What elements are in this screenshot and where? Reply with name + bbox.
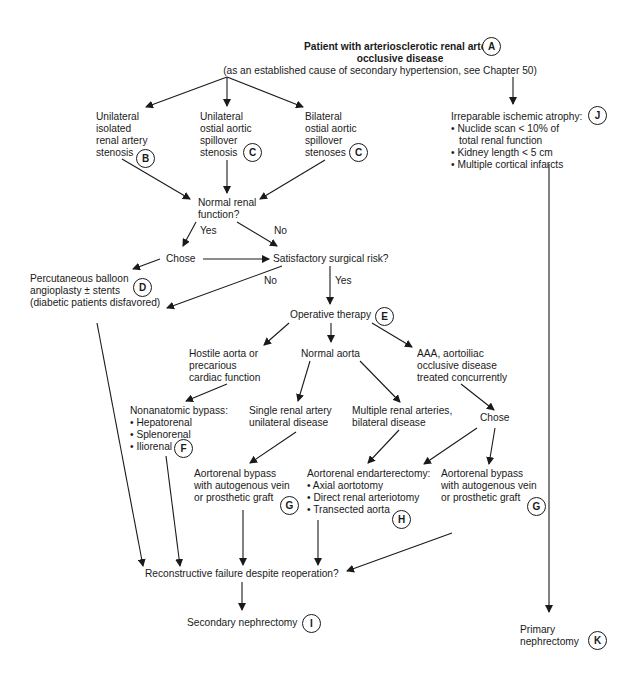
node-g1-line: with autogenous vein xyxy=(194,480,290,492)
node-g2-line: with autogenous vein xyxy=(441,480,537,492)
node-g2-line: Aortorenal bypass xyxy=(441,468,537,480)
node-f-title: Nonanatomic bypass: xyxy=(130,405,228,417)
node-normal-renal-function: Normal renal function? xyxy=(198,197,256,221)
node-operative-therapy: Operative therapy xyxy=(290,309,371,321)
node-secondary-nephrectomy: Secondary nephrectomy xyxy=(187,617,297,629)
hostile-line: precarious xyxy=(189,360,260,372)
node-primary-nephrectomy: Primary nephrectomy xyxy=(520,624,579,648)
chose1-line: Chose xyxy=(166,253,195,265)
badge-j: J xyxy=(588,106,607,125)
hostile-line: cardiac function xyxy=(189,372,260,384)
node-a-line-2: occlusive disease xyxy=(250,53,550,65)
normal-renal-line: Normal renal xyxy=(198,197,256,209)
node-d-line: (diabetic patients disfavored) xyxy=(30,297,160,309)
badge-i: I xyxy=(302,614,321,633)
node-g2-line: or prosthetic graft xyxy=(441,492,537,504)
aaa-line: AAA, aortoiliac xyxy=(417,348,507,360)
node-a-note: (as an established cause of secondary hy… xyxy=(190,65,570,77)
hostile-line: Hostile aorta or xyxy=(189,348,260,360)
node-aortorenal-bypass-2: Aortorenal bypass with autogenous vein o… xyxy=(441,468,537,504)
aaa-line: occlusive disease xyxy=(417,360,507,372)
node-h-bullet: • Transected aorta xyxy=(307,504,430,516)
surgical-risk-line: Satisfactory surgical risk? xyxy=(273,253,389,265)
node-multiple-renal-arteries: Multiple renal arteries, bilateral disea… xyxy=(352,405,452,429)
node-g1-line: Aortorenal bypass xyxy=(194,468,290,480)
node-c1-line: spillover xyxy=(200,135,252,147)
edge-label-yes-1: Yes xyxy=(200,225,217,236)
node-c2-line: Bilateral xyxy=(305,111,357,123)
node-a-line-1: Patient with arteriosclerotic renal arte… xyxy=(250,41,550,53)
multiple-line: Multiple renal arteries, xyxy=(352,405,452,417)
node-j-bullet: • Kidney length < 5 cm xyxy=(451,147,582,159)
node-irreparable-atrophy: Irreparable ischemic atrophy: • Nuclide … xyxy=(451,111,582,171)
edge-label-no-2: No xyxy=(264,275,277,286)
edge-label-yes-2: Yes xyxy=(335,275,352,286)
chose2-line: Chose xyxy=(480,412,509,424)
node-j-title: Irreparable ischemic atrophy: xyxy=(451,111,582,123)
node-aortorenal-bypass-1: Aortorenal bypass with autogenous vein o… xyxy=(194,468,290,504)
node-a-line-3: (as an established cause of secondary hy… xyxy=(190,65,570,77)
badge-h: H xyxy=(392,510,411,529)
node-j-bullet: • Multiple cortical infarcts xyxy=(451,159,582,171)
node-aortorenal-endarterectomy: Aortorenal endarterectomy: • Axial aorto… xyxy=(307,468,430,516)
node-k-line: Primary xyxy=(520,624,579,636)
node-h-bullet: • Axial aortotomy xyxy=(307,480,430,492)
badge-e: E xyxy=(375,307,394,326)
reconstructive-line: Reconstructive failure despite reoperati… xyxy=(145,568,339,580)
node-c2-line: spillover xyxy=(305,135,357,147)
node-reconstructive-failure: Reconstructive failure despite reoperati… xyxy=(145,568,339,580)
badge-g-2: G xyxy=(527,497,546,516)
badge-f: F xyxy=(174,439,193,458)
normal-aorta-line: Normal aorta xyxy=(301,348,360,360)
node-aaa-aortoiliac: AAA, aortoiliac occlusive disease treate… xyxy=(417,348,507,384)
badge-a: A xyxy=(482,37,501,56)
node-e-line: Operative therapy xyxy=(290,309,371,321)
node-chose-2: Chose xyxy=(480,412,509,424)
multiple-line: bilateral disease xyxy=(352,417,452,429)
single-line: Single renal artery xyxy=(249,405,332,417)
node-c2-line: ostial aortic xyxy=(305,123,357,135)
node-h-bullet: • Direct renal arteriotomy xyxy=(307,492,430,504)
node-f-bullet: • Hepatorenal xyxy=(130,417,228,429)
badge-c-unilateral: C xyxy=(243,143,262,162)
badge-b: B xyxy=(136,149,155,168)
node-g1-line: or prosthetic graft xyxy=(194,492,290,504)
node-j-bullet: • Nuclide scan < 10% of xyxy=(451,123,582,135)
node-b-line: isolated xyxy=(96,123,148,135)
node-c1-line: Unilateral xyxy=(200,111,252,123)
aaa-line: treated concurrently xyxy=(417,372,507,384)
edge-label-no-1: No xyxy=(274,225,287,236)
node-normal-aorta: Normal aorta xyxy=(301,348,360,360)
node-b-line: Unilateral xyxy=(96,111,148,123)
node-i-line: Secondary nephrectomy xyxy=(187,617,297,629)
node-b-line: renal artery xyxy=(96,135,148,147)
node-hostile-aorta: Hostile aorta or precarious cardiac func… xyxy=(189,348,260,384)
node-j-bullet: total renal function xyxy=(451,135,582,147)
node-patient-arteriosclerotic: Patient with arteriosclerotic renal arte… xyxy=(250,41,550,65)
node-k-line: nephrectomy xyxy=(520,636,579,648)
badge-g-1: G xyxy=(280,496,299,515)
badge-k: K xyxy=(588,631,607,650)
node-single-renal-artery: Single renal artery unilateral disease xyxy=(249,405,332,429)
normal-renal-line: function? xyxy=(198,209,256,221)
node-c1-line: ostial aortic xyxy=(200,123,252,135)
badge-c-bilateral: C xyxy=(349,143,368,162)
node-h-title: Aortorenal endarterectomy: xyxy=(307,468,430,480)
badge-d: D xyxy=(133,278,152,297)
single-line: unilateral disease xyxy=(249,417,332,429)
node-satisfactory-surgical-risk: Satisfactory surgical risk? xyxy=(273,253,389,265)
node-chose-1: Chose xyxy=(166,253,195,265)
